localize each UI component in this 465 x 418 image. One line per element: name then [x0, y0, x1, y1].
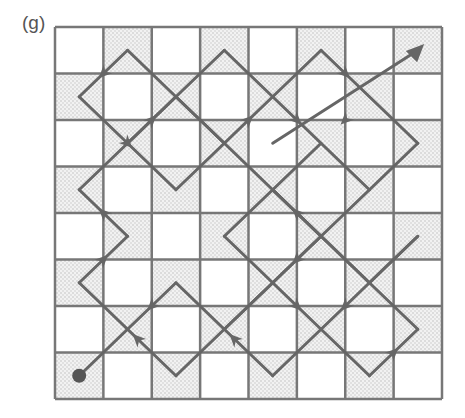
- white-cell: [345, 27, 393, 74]
- white-cell: [394, 167, 442, 214]
- white-cell: [103, 167, 151, 214]
- white-cell: [297, 167, 345, 214]
- white-cell: [345, 306, 393, 353]
- white-cell: [249, 213, 297, 260]
- white-cell: [103, 74, 151, 121]
- white-cell: [152, 120, 200, 167]
- white-cell: [55, 120, 103, 167]
- white-cell: [394, 353, 442, 400]
- white-cell: [200, 167, 248, 214]
- white-cell: [297, 353, 345, 400]
- white-cell: [297, 260, 345, 307]
- white-cell: [152, 27, 200, 74]
- white-cell: [55, 306, 103, 353]
- start-dot-icon: [72, 369, 86, 383]
- white-cell: [55, 27, 103, 74]
- white-cell: [249, 27, 297, 74]
- white-cell: [249, 306, 297, 353]
- white-cell: [345, 120, 393, 167]
- white-cell: [200, 260, 248, 307]
- white-cell: [55, 213, 103, 260]
- white-cell: [152, 213, 200, 260]
- white-cell: [200, 74, 248, 121]
- white-cell: [394, 74, 442, 121]
- white-cell: [103, 260, 151, 307]
- white-cell: [152, 306, 200, 353]
- white-cell: [394, 260, 442, 307]
- white-cell: [345, 213, 393, 260]
- white-cell: [103, 353, 151, 400]
- checkerboard-diagram: [0, 0, 465, 418]
- white-cell: [200, 353, 248, 400]
